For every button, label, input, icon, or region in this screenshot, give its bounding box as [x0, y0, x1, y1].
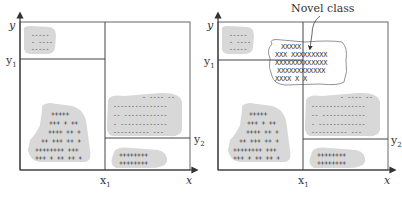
right-x1-label: x1 — [298, 174, 309, 189]
right-panel: y y1 y2 x1 x Novel class XXXXX XXX XXXXX… — [203, 2, 402, 189]
svg-text:++ +++ ++ +: ++ +++ ++ + — [239, 137, 279, 145]
svg-text:+++++: +++++ — [51, 110, 69, 118]
svg-text:- ---- --: - ---- -- — [340, 93, 373, 101]
left-panel: y y1 y2 x1 x ----- - ---- ----- +++++ ++… — [5, 15, 205, 189]
right-cluster-right-lower-points: ++++++++ ++++++++ — [317, 151, 346, 167]
svg-text:-- ------------: -- ------------ — [311, 111, 365, 119]
svg-text:+++++: +++++ — [249, 110, 267, 118]
svg-text:+++ + ++: +++ + ++ — [49, 119, 78, 127]
left-x-axis-label: x — [186, 174, 193, 187]
svg-text:++++++++ +++: ++++++++ +++ — [35, 146, 79, 154]
svg-text:++++ ++ +: ++++ ++ + — [246, 128, 279, 136]
svg-text:XXXXXXXXXXXX: XXXXXXXXXXXX — [277, 67, 326, 75]
svg-text:++++++++: ++++++++ — [119, 159, 148, 167]
svg-text:- ---- --: - ---- -- — [142, 93, 175, 101]
svg-text:+++ + ++ ++ +: +++ + ++ ++ + — [233, 154, 280, 162]
svg-text:++ +++ ++ +: ++ +++ ++ + — [41, 137, 81, 145]
svg-text:---------- ---: ---------- --- — [113, 128, 164, 136]
svg-text:XXXX X X: XXXX X X — [275, 75, 308, 83]
svg-text:- -------------: - ------------- — [113, 120, 167, 128]
svg-text:---------- ---: ---------- --- — [311, 128, 362, 136]
svg-text:++++ ++ +: ++++ ++ + — [48, 128, 81, 136]
left-y-axis-label: y — [8, 19, 16, 32]
svg-text:-- ------------: -- ------------ — [113, 111, 167, 119]
novel-class-annotation: Novel class — [291, 2, 355, 15]
svg-text:++++++++: ++++++++ — [317, 151, 346, 159]
left-x1-label: x1 — [100, 174, 111, 189]
left-cluster-right-lower-points: ++++++++ ++++++++ — [119, 151, 148, 167]
svg-text:++++++++: ++++++++ — [119, 151, 148, 159]
svg-text:+++ + ++: +++ + ++ — [247, 119, 276, 127]
svg-text:XXX XXXXXXXXX: XXX XXXXXXXXX — [275, 51, 328, 59]
svg-text:++++++++: ++++++++ — [317, 159, 346, 167]
svg-text:- -------------: - ------------- — [311, 120, 365, 128]
svg-text:-----: ----- — [229, 45, 247, 53]
decision-tree-partition-figure: y y1 y2 x1 x ----- - ---- ----- +++++ ++… — [0, 0, 402, 199]
right-y1-label: y1 — [203, 55, 215, 70]
svg-text:---------------: --------------- — [311, 102, 365, 110]
svg-text:XXXXX: XXXXX — [281, 43, 302, 51]
svg-text:-----: ----- — [31, 45, 49, 53]
left-y1-label: y1 — [5, 54, 17, 69]
svg-text:XXXXXXXXXXXXX: XXXXXXXXXXXXX — [275, 59, 328, 67]
right-x-axis-label: x — [384, 174, 391, 187]
svg-text:---------------: --------------- — [113, 102, 167, 110]
right-y2-label: y2 — [390, 134, 402, 149]
svg-text:+++ + ++ ++ +: +++ + ++ ++ + — [35, 154, 82, 162]
svg-text:++++++++ +++: ++++++++ +++ — [233, 146, 277, 154]
right-y-axis-label: y — [206, 19, 214, 32]
left-y2-label: y2 — [193, 133, 205, 148]
